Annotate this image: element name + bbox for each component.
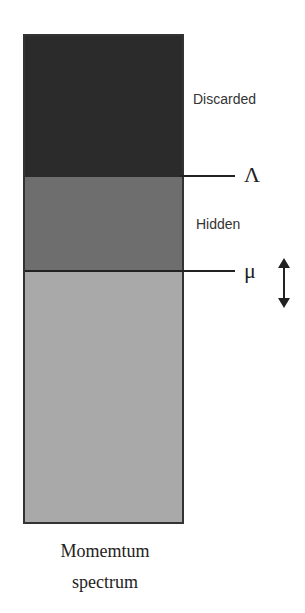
mu-scale-line bbox=[180, 270, 235, 272]
region-hidden bbox=[25, 177, 182, 272]
region-discarded bbox=[25, 36, 182, 177]
caption-line-2: spectrum bbox=[0, 572, 210, 593]
lambda-cutoff-line bbox=[180, 175, 235, 177]
lambda-symbol: Λ bbox=[244, 162, 260, 188]
double-arrow-icon bbox=[276, 258, 292, 312]
region-low-momentum bbox=[25, 272, 182, 522]
label-hidden: Hidden bbox=[196, 216, 240, 232]
mu-symbol: μ bbox=[244, 258, 256, 284]
momentum-spectrum-bar bbox=[23, 34, 184, 524]
caption-line-1: Momemtum bbox=[0, 541, 210, 562]
label-discarded: Discarded bbox=[193, 91, 256, 107]
